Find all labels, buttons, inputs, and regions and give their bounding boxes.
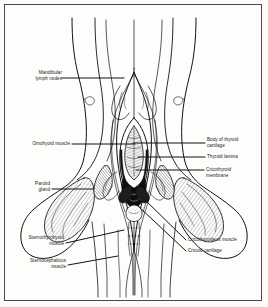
label-cricothyroid-membrane: Cricothyroid membrane (206, 167, 262, 178)
label-sternothyrohyoid-muscle: Sternothyrohyoid muscle (8, 235, 64, 246)
label-parotid-gland: Parotid gland (10, 181, 50, 192)
label-cricoid-cartilage: Cricoid cartilage (188, 248, 266, 254)
label-cricothyroideus-muscle: Cricothyroideus muscle (188, 237, 266, 243)
label-sternocephalicus-muscle: Sternocephalicus muscle (8, 258, 66, 269)
label-body-of-thyroid-cartilage: Body of thyroid cartilage (207, 137, 263, 148)
figure-root: Mandibular lymph nodes Omohyoid muscle P… (0, 0, 268, 307)
label-thyroid-lamina: Thyroid lamina (207, 154, 263, 160)
label-omohyoid-muscle: Omohyoid muscle (8, 141, 70, 147)
label-mandibular-lymph-nodes: Mandibular lymph nodes (14, 70, 62, 81)
